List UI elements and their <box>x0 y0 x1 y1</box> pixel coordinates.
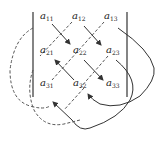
entry-a32: a32 <box>73 78 87 89</box>
positive-diagonals <box>52 24 154 129</box>
entry-a21: a21 <box>40 45 54 56</box>
determinant-diagram: a11 a12 a13 a21 a22 a23 a31 a32 a33 <box>0 0 160 142</box>
entry-a12: a12 <box>72 11 86 22</box>
entry-a22: a22 <box>73 45 87 56</box>
entry-a31: a31 <box>40 78 54 89</box>
entry-a33: a33 <box>106 78 120 89</box>
entry-a11: a11 <box>40 11 54 22</box>
entry-a13: a13 <box>104 11 118 22</box>
entry-a23: a23 <box>106 45 120 56</box>
negative-diagonals <box>10 22 108 125</box>
